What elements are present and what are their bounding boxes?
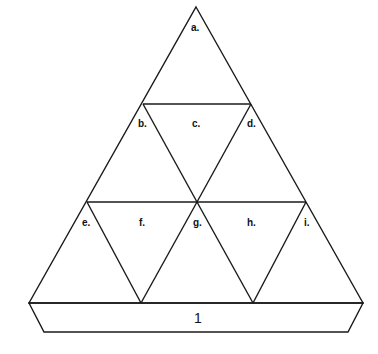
tab-label: 1 — [194, 310, 202, 326]
diagonal-g-f — [141, 202, 197, 303]
diagonal-e-f — [87, 202, 141, 303]
label-g: g. — [193, 217, 202, 228]
diagonal-i-h — [253, 202, 306, 303]
label-b: b. — [138, 118, 147, 129]
label-d: d. — [247, 118, 256, 129]
triangle-net-diagram: a. b. c. d. e. f. g. h. i. 1 — [0, 0, 378, 354]
diagonal-g-h — [197, 202, 253, 303]
label-f: f. — [139, 217, 145, 228]
outer-triangle — [29, 7, 363, 303]
diagonal-d-g — [197, 104, 251, 202]
diagonal-b-g — [143, 104, 197, 202]
label-e: e. — [82, 217, 91, 228]
label-a: a. — [191, 22, 200, 33]
label-c: c. — [192, 118, 201, 129]
label-h: h. — [247, 217, 256, 228]
label-i: i. — [304, 217, 310, 228]
